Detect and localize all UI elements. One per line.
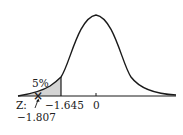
test-statistic-marker-icon: ×	[33, 90, 43, 102]
shaded-area-label: 5%	[32, 78, 49, 89]
zero-label: 0	[93, 100, 100, 111]
test-statistic-label: −1.807	[17, 112, 56, 123]
critical-value-label: −1.645	[45, 100, 84, 111]
axis-label-z: Z:	[16, 100, 27, 111]
